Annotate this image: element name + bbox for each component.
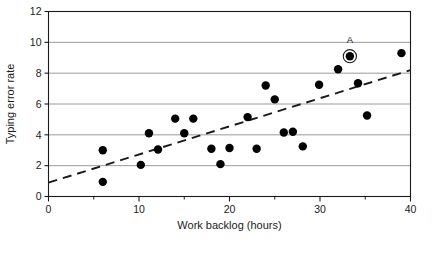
x-axis: 010203040 (46, 197, 417, 215)
chart-canvas: 024681012010203040Work backlog (hours)Ty… (0, 0, 433, 268)
data-point (280, 128, 288, 136)
data-point (315, 81, 323, 89)
x-tick-label-30: 30 (314, 203, 326, 215)
data-point (252, 145, 260, 153)
data-point (99, 146, 107, 154)
data-point (137, 161, 145, 169)
data-point (180, 129, 188, 137)
y-tick-label-2: 2 (36, 159, 42, 171)
x-tick-label-20: 20 (224, 203, 236, 215)
data-point (99, 178, 107, 186)
data-point (154, 145, 162, 153)
data-point (299, 142, 307, 150)
data-point (171, 114, 179, 122)
data-point (289, 128, 297, 136)
y-axis: 024681012 (30, 5, 49, 202)
data-point (207, 145, 215, 153)
annotations: A (347, 34, 354, 45)
data-point (354, 79, 362, 87)
data-point (346, 52, 354, 60)
data-point (262, 81, 270, 89)
x-axis-title: Work backlog (hours) (177, 219, 281, 231)
data-point (243, 113, 251, 121)
y-tick-label-10: 10 (30, 36, 42, 48)
data-point (363, 111, 371, 119)
y-tick-label-0: 0 (36, 190, 42, 202)
x-tick-label-0: 0 (46, 203, 52, 215)
data-point (397, 49, 405, 57)
data-point (334, 65, 342, 73)
scatter-plot-figure: 024681012010203040Work backlog (hours)Ty… (0, 0, 433, 268)
point-label-A: A (347, 34, 354, 45)
data-point (225, 144, 233, 152)
x-tick-label-10: 10 (133, 203, 145, 215)
x-tick-label-40: 40 (405, 203, 417, 215)
data-point (271, 95, 279, 103)
y-tick-label-6: 6 (36, 98, 42, 110)
y-tick-label-8: 8 (36, 67, 42, 79)
y-tick-label-12: 12 (30, 5, 42, 17)
y-tick-label-4: 4 (36, 129, 42, 141)
data-point (189, 114, 197, 122)
data-point (216, 160, 224, 168)
data-point (145, 129, 153, 137)
y-axis-title: Typing error rate (4, 64, 16, 145)
